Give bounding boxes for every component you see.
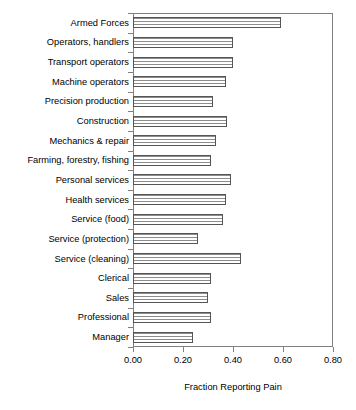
x-axis-tick — [183, 347, 184, 352]
x-axis-tick — [233, 347, 234, 352]
x-axis-tick-marks — [133, 347, 334, 352]
y-axis-label: Clerical — [0, 268, 129, 288]
bar — [133, 135, 216, 146]
y-axis-label-text: Manager — [92, 332, 129, 342]
y-axis-label-text: Transport operators — [48, 57, 129, 67]
x-axis-title: Fraction Reporting Pain — [133, 381, 333, 393]
bar-row — [133, 327, 333, 347]
bar — [133, 17, 281, 28]
y-axis-label: Armed Forces — [0, 13, 129, 33]
x-axis-tick — [283, 347, 284, 352]
y-axis-label-text: Clerical — [98, 273, 129, 283]
bar-row — [133, 209, 333, 229]
bar-row — [133, 308, 333, 328]
y-axis-label: Transport operators — [0, 52, 129, 72]
y-axis-label: Manager — [0, 327, 129, 347]
y-axis-label: Precision production — [0, 92, 129, 112]
y-axis-label-text: Construction — [77, 116, 129, 126]
bar — [133, 174, 231, 185]
y-axis-label-text: Professional — [78, 312, 129, 322]
bar-row — [133, 288, 333, 308]
bar — [133, 37, 233, 48]
bar-row — [133, 13, 333, 33]
y-axis-label-text: Farming, forestry, fishing — [27, 155, 129, 165]
y-axis-label: Farming, forestry, fishing — [0, 150, 129, 170]
x-axis-tick-label: 0.40 — [224, 354, 242, 366]
chart-container: Armed ForcesOperators, handlersTransport… — [0, 0, 356, 410]
bar-row — [133, 190, 333, 210]
y-axis-label-text: Armed Forces — [71, 18, 129, 28]
bar-row — [133, 268, 333, 288]
bar — [133, 76, 226, 87]
bar-row — [133, 92, 333, 112]
bar-row — [133, 131, 333, 151]
x-axis-tick — [133, 347, 134, 352]
x-axis-tick-label: 0.60 — [274, 354, 292, 366]
x-axis-tick-label: 0.00 — [124, 354, 142, 366]
bar-row — [133, 52, 333, 72]
y-axis-label-text: Service (protection) — [48, 234, 129, 244]
y-axis-label: Sales — [0, 288, 129, 308]
bar — [133, 57, 233, 68]
y-axis-label: Machine operators — [0, 72, 129, 92]
y-axis-label: Mechanics & repair — [0, 131, 129, 151]
y-axis-label: Operators, handlers — [0, 33, 129, 53]
y-axis-label: Construction — [0, 111, 129, 131]
y-axis-category-labels: Armed ForcesOperators, handlersTransport… — [0, 13, 129, 347]
bar-row — [133, 229, 333, 249]
x-axis-tick — [333, 347, 334, 352]
x-axis-tick-label: 0.20 — [174, 354, 192, 366]
y-axis-label: Health services — [0, 190, 129, 210]
y-axis-label-text: Sales — [106, 293, 129, 303]
bar — [133, 253, 241, 264]
bar-row — [133, 72, 333, 92]
bar — [133, 312, 211, 323]
x-axis-tick-label: 0.80 — [324, 354, 342, 366]
bar — [133, 332, 193, 343]
y-axis-label-text: Service (food) — [71, 214, 129, 224]
bar — [133, 96, 213, 107]
y-axis-label: Service (cleaning) — [0, 249, 129, 269]
y-axis-label-text: Personal services — [56, 175, 129, 185]
bar-row — [133, 33, 333, 53]
bar-row — [133, 249, 333, 269]
y-axis-label-text: Operators, handlers — [47, 37, 129, 47]
bar — [133, 273, 211, 284]
y-axis-label-text: Service (cleaning) — [55, 254, 129, 264]
y-axis-label: Professional — [0, 308, 129, 328]
bar-series — [133, 13, 333, 347]
y-axis-label: Service (food) — [0, 209, 129, 229]
x-axis-tick-labels: 0.000.200.400.600.80 — [0, 354, 356, 368]
y-axis-label: Personal services — [0, 170, 129, 190]
bar — [133, 292, 208, 303]
bar — [133, 214, 223, 225]
y-axis-label-text: Machine operators — [52, 77, 129, 87]
bar-row — [133, 111, 333, 131]
bar — [133, 155, 211, 166]
bar — [133, 194, 226, 205]
y-axis-label-text: Health services — [65, 195, 129, 205]
bar-row — [133, 150, 333, 170]
bar-row — [133, 170, 333, 190]
bar — [133, 233, 198, 244]
y-axis-label-text: Mechanics & repair — [49, 136, 129, 146]
y-axis-label-text: Precision production — [45, 96, 129, 106]
bar — [133, 116, 227, 127]
y-axis-label: Service (protection) — [0, 229, 129, 249]
